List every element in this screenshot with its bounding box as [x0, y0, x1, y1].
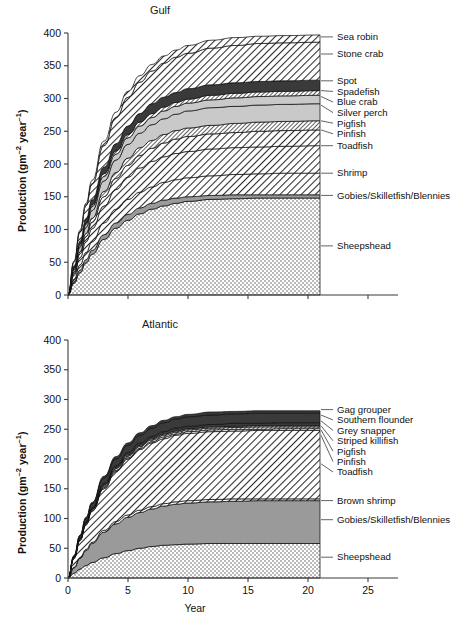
label-leader-line: [321, 121, 333, 123]
chart-panel-gulf: Gulf Production (gm–2 year–1) 0501001502…: [0, 0, 469, 312]
y-tick-label: 300: [43, 92, 61, 104]
plot-area-atlantic: 0501001502002503003504000510152025Gag gr…: [0, 312, 469, 624]
series-label: Spadefish: [337, 86, 380, 97]
series-label: Sheepshead: [337, 240, 391, 251]
series-label: Blue crab: [337, 96, 378, 107]
label-leader-line: [321, 105, 333, 113]
figure-caption-clipped: [0, 610, 469, 624]
series-label: Toadfish: [337, 466, 373, 477]
series-label: Brown shrimp: [337, 495, 396, 506]
series-label: Stone crab: [337, 48, 383, 59]
y-tick-label: 150: [43, 482, 61, 494]
y-tick-label: 0: [55, 289, 61, 301]
series-label: Gobies/Skilletfish/Blennies: [337, 514, 450, 525]
y-tick-label: 350: [43, 363, 61, 375]
y-tick-label: 400: [43, 334, 61, 346]
y-tick-label: 350: [43, 59, 61, 71]
label-leader-line: [321, 91, 333, 92]
y-tick-label: 100: [43, 512, 61, 524]
y-tick-label: 50: [49, 256, 61, 268]
x-tick-label: 25: [362, 584, 374, 596]
y-tick-label: 50: [49, 542, 61, 554]
series-label: Southern flounder: [337, 414, 414, 425]
figure-stacked-production-charts: Gulf Production (gm–2 year–1) 0501001502…: [0, 0, 469, 624]
label-leader-line: [321, 97, 333, 103]
series-label: Shrimp: [337, 167, 367, 178]
series-label: Pinfish: [337, 456, 366, 467]
label-leader-line: [321, 464, 333, 472]
series-label: Pinfish: [337, 128, 366, 139]
series-label: Spot: [337, 75, 357, 86]
series-label: Sheepshead: [337, 551, 391, 562]
label-leader-line: [321, 415, 333, 420]
chart-panel-atlantic: Atlantic Production (gm–2 year–1) 050100…: [0, 312, 469, 624]
y-tick-label: 400: [43, 27, 61, 39]
series-label: Pigfish: [337, 446, 366, 457]
label-leader-line: [321, 421, 333, 431]
x-tick-label: 10: [182, 584, 194, 596]
plot-area-gulf: 050100150200250300350400Sea robinStone c…: [0, 0, 469, 312]
series-label: Gobies/Skilletfish/Blennies: [337, 190, 450, 201]
y-tick-label: 100: [43, 223, 61, 235]
x-tick-label: 15: [242, 584, 254, 596]
x-tick-label: 5: [125, 584, 131, 596]
y-tick-label: 300: [43, 393, 61, 405]
y-tick-label: 200: [43, 453, 61, 465]
x-tick-label: 0: [65, 584, 71, 596]
series-label: Toadfish: [337, 140, 373, 151]
label-leader-line: [321, 130, 333, 134]
y-tick-label: 250: [43, 125, 61, 137]
series-label: Silver perch: [337, 107, 388, 118]
x-tick-label: 20: [302, 584, 314, 596]
y-tick-label: 200: [43, 158, 61, 170]
series-label: Pigfish: [337, 118, 366, 129]
series-label: Gag grouper: [337, 404, 392, 415]
y-tick-label: 150: [43, 190, 61, 202]
series-label: Striped killifish: [337, 435, 398, 446]
series-label: Grey snapper: [337, 425, 396, 436]
y-tick-label: 0: [55, 572, 61, 584]
series-label: Sea robin: [337, 31, 378, 42]
y-tick-label: 250: [43, 423, 61, 435]
